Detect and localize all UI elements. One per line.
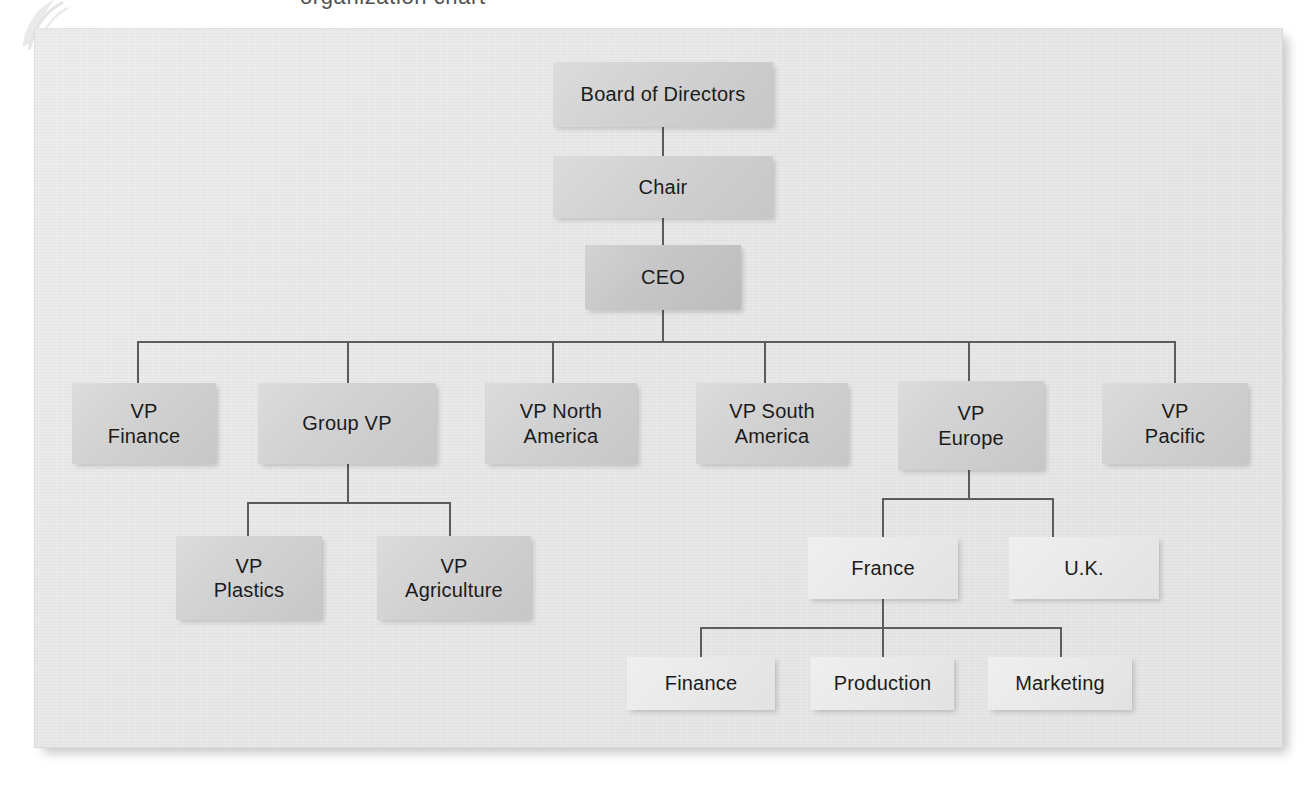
connector-drop-vp-europe — [968, 341, 970, 383]
node-label: Production — [828, 671, 938, 695]
node-vp-pacific[interactable]: VP Pacific — [1102, 383, 1248, 464]
node-marketing[interactable]: Marketing — [988, 657, 1132, 710]
connector-drop-group-vp — [347, 341, 349, 383]
connector-group-vp-stem — [347, 464, 349, 503]
connector-ceo-stem — [662, 310, 664, 342]
node-vp-europe[interactable]: VP Europe — [898, 381, 1044, 470]
node-label: VP Agriculture — [399, 554, 509, 603]
connector-drop-fr-production — [882, 627, 884, 658]
node-vp-plastics[interactable]: VP Plastics — [176, 536, 322, 620]
connector-vp-bus — [137, 341, 1176, 343]
screenshot-root: organization chart Board of Directors Ch… — [0, 0, 1316, 789]
connector-france-stem — [882, 599, 884, 628]
node-label: Marketing — [1009, 671, 1111, 695]
connector-drop-vp-south — [764, 341, 766, 383]
connector-drop-france — [882, 498, 884, 538]
node-production[interactable]: Production — [811, 657, 954, 710]
connector-drop-fr-finance — [700, 627, 702, 658]
node-finance[interactable]: Finance — [627, 657, 775, 710]
connector-chair-ceo — [662, 218, 664, 246]
connector-drop-uk — [1052, 498, 1054, 538]
node-uk[interactable]: U.K. — [1009, 537, 1159, 599]
node-label: CEO — [635, 265, 691, 289]
node-label: VP Pacific — [1139, 399, 1211, 448]
node-label: U.K. — [1058, 556, 1110, 580]
chart-panel — [34, 28, 1283, 748]
node-board-of-directors[interactable]: Board of Directors — [553, 62, 773, 127]
node-ceo[interactable]: CEO — [585, 245, 741, 310]
node-vp-south-america[interactable]: VP South America — [696, 383, 848, 464]
cropped-heading-bleed: organization chart — [300, 0, 486, 10]
connector-drop-vp-agriculture — [449, 502, 451, 536]
connector-drop-vp-finance — [137, 341, 139, 383]
connector-france-bus — [700, 627, 1062, 629]
node-label: Board of Directors — [575, 82, 752, 106]
node-label: France — [845, 556, 920, 580]
connector-board-chair — [662, 127, 664, 156]
node-vp-finance[interactable]: VP Finance — [72, 383, 216, 464]
node-label: VP North America — [514, 399, 608, 448]
node-label: VP Finance — [102, 399, 187, 448]
connector-drop-vp-plastics — [247, 502, 249, 536]
node-label: VP Europe — [932, 401, 1010, 450]
node-label: Finance — [659, 671, 744, 695]
node-france[interactable]: France — [808, 537, 958, 599]
connector-drop-fr-marketing — [1060, 627, 1062, 658]
node-label: Group VP — [296, 411, 397, 435]
node-vp-agriculture[interactable]: VP Agriculture — [377, 536, 531, 620]
node-group-vp[interactable]: Group VP — [258, 383, 436, 464]
node-label: Chair — [633, 175, 694, 199]
connector-drop-vp-pacific — [1174, 341, 1176, 383]
node-vp-north-america[interactable]: VP North America — [485, 383, 637, 464]
connector-vp-europe-bus — [882, 498, 1054, 500]
connector-drop-vp-north — [552, 341, 554, 383]
node-label: VP South America — [723, 399, 821, 448]
node-label: VP Plastics — [208, 554, 291, 603]
node-chair[interactable]: Chair — [553, 156, 773, 218]
connector-group-vp-bus — [247, 502, 450, 504]
connector-vp-europe-stem — [968, 470, 970, 499]
